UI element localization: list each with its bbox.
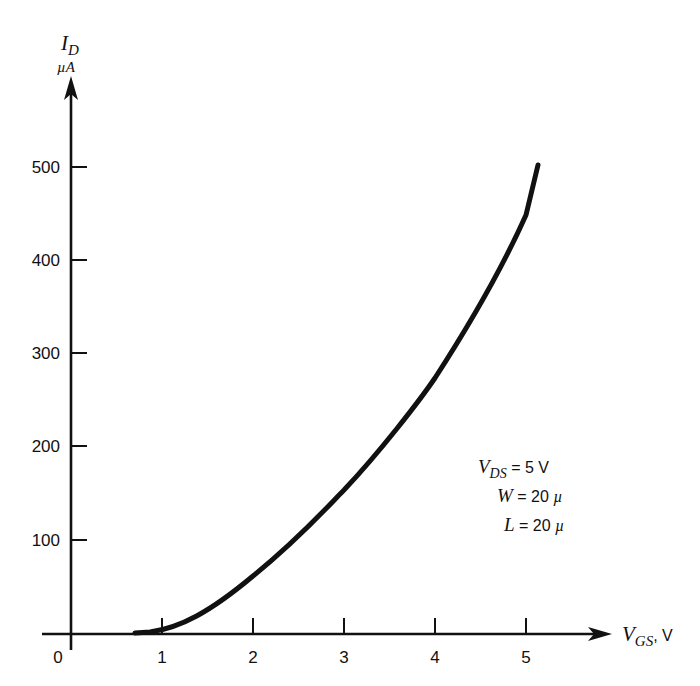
y-ticks [71,167,87,540]
y-tick-label-100: 100 [32,531,60,550]
x-tick-label-4: 4 [430,648,439,667]
y-tick-label-500: 500 [32,158,60,177]
x-tick-label-5: 5 [521,648,530,667]
svg-text:µA: µA [57,59,76,75]
x-tick-label-3: 3 [339,648,348,667]
y-tick-label-300: 300 [32,344,60,363]
x-tick-label-1: 1 [157,648,166,667]
x-ticks [162,618,526,634]
y-tick-label-200: 200 [32,437,60,456]
parameter-legend: VDS = 5 V W = 20 µ L = 20 µ [478,456,564,535]
y-tick-label-400: 400 [32,251,60,270]
legend-l: L = 20 µ [503,514,564,535]
x-axis-label: VGS, V [622,622,673,649]
svg-text:VGS, V: VGS, V [622,622,673,649]
origin-label: 0 [53,648,62,667]
y-axis-label: ID µA [57,31,79,75]
x-tick-label-2: 2 [248,648,257,667]
svg-text:ID: ID [60,31,79,58]
id-vs-vgs-chart: 500 400 300 200 100 0 1 2 3 4 5 ID µA VG… [0,0,700,686]
legend-vds: VDS = 5 V [478,456,549,481]
id-vgs-curve [135,165,538,633]
legend-w: W = 20 µ [497,485,563,506]
